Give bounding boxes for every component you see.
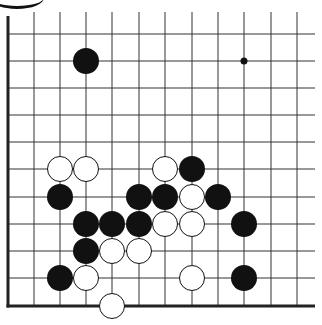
white-stone[interactable] bbox=[74, 266, 99, 291]
white-stone[interactable] bbox=[127, 239, 152, 264]
black-stone[interactable] bbox=[126, 211, 152, 237]
white-stone[interactable] bbox=[153, 157, 178, 182]
black-stone[interactable] bbox=[73, 48, 99, 74]
black-stone[interactable] bbox=[179, 156, 205, 182]
black-stone[interactable] bbox=[47, 184, 73, 210]
black-stone[interactable] bbox=[99, 211, 125, 237]
white-stone[interactable] bbox=[153, 212, 178, 237]
black-stone[interactable] bbox=[231, 211, 257, 237]
black-stone[interactable] bbox=[73, 238, 99, 264]
star-points bbox=[241, 58, 248, 65]
black-stone[interactable] bbox=[47, 265, 73, 291]
black-stone[interactable] bbox=[231, 265, 257, 291]
white-stone[interactable] bbox=[48, 157, 73, 182]
white-stone[interactable] bbox=[100, 294, 125, 319]
star-point-icon bbox=[241, 58, 248, 65]
black-stone[interactable] bbox=[205, 184, 231, 210]
black-stone[interactable] bbox=[152, 184, 178, 210]
black-stone[interactable] bbox=[126, 184, 152, 210]
go-board[interactable] bbox=[0, 0, 322, 325]
white-stone[interactable] bbox=[180, 212, 205, 237]
black-stone[interactable] bbox=[73, 211, 99, 237]
white-stone[interactable] bbox=[180, 185, 205, 210]
white-stone[interactable] bbox=[74, 157, 99, 182]
white-stone[interactable] bbox=[100, 239, 125, 264]
white-stone[interactable] bbox=[180, 266, 205, 291]
